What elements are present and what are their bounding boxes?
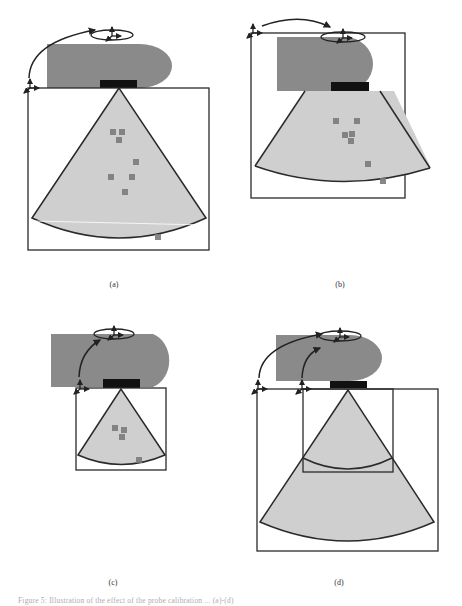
ultrasound-fan-large <box>260 390 434 541</box>
panel-d <box>252 328 438 551</box>
transform-arrow <box>262 19 330 27</box>
transducer <box>331 82 369 91</box>
ultrasound-fan <box>32 88 206 238</box>
panel-label-b: (b) <box>335 280 344 289</box>
ultrasound-fan <box>78 389 165 465</box>
transducer <box>330 381 367 388</box>
transducer <box>103 379 140 388</box>
panel-b <box>247 19 431 198</box>
figure-caption: Figure 5: Illustration of the effect of … <box>18 596 458 605</box>
panel-label-d: (d) <box>334 578 343 587</box>
panel-c <box>51 326 169 470</box>
transducer <box>100 80 137 88</box>
panel-label-c: (c) <box>109 578 118 587</box>
figure-canvas <box>0 0 462 606</box>
panel-a <box>24 27 209 250</box>
panel-label-a: (a) <box>110 280 119 289</box>
